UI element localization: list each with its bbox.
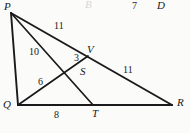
measure-label-qt: 8 [54, 110, 59, 120]
measure-label-pv: 11 [54, 21, 64, 31]
vertex-label-v: V [87, 44, 94, 55]
segment-qv [18, 56, 88, 105]
vertex-label-q: Q [3, 99, 11, 110]
geometry-figure: P Q R V S T 11 10 6 3 11 8 B 7 D [0, 0, 190, 133]
stray-label-b: B [85, 0, 92, 10]
vertex-label-r: R [177, 97, 184, 108]
measure-label-vr: 11 [123, 65, 133, 75]
vertex-label-t: T [92, 108, 98, 119]
segment-pr [11, 13, 172, 105]
measure-label-sv: 3 [74, 53, 79, 63]
stray-label-7: 7 [132, 1, 137, 11]
stray-label-d: D [157, 0, 165, 11]
vertex-label-s: S [80, 66, 86, 77]
segment-pt [11, 13, 93, 105]
measure-label-ps: 10 [29, 47, 39, 57]
vertex-label-p: P [4, 1, 11, 12]
measure-label-qs: 6 [38, 77, 43, 87]
segment-pq [11, 13, 18, 105]
